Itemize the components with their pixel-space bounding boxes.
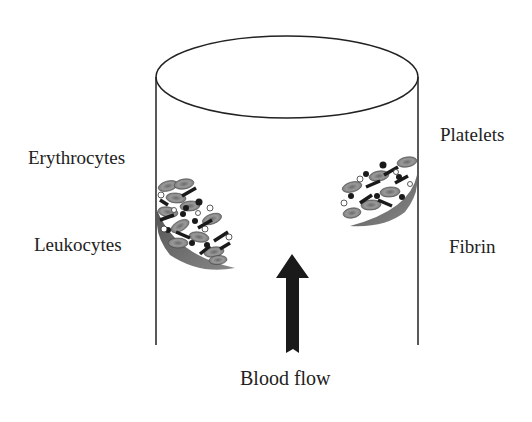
label-fibrin: Fibrin <box>449 237 495 256</box>
label-erythrocytes: Erythrocytes <box>28 148 125 167</box>
vessel-diagram <box>0 0 532 422</box>
left-thrombus <box>157 177 235 269</box>
label-platelets: Platelets <box>440 125 504 144</box>
label-leukocytes: Leukocytes <box>34 235 122 254</box>
right-thrombus <box>341 155 418 226</box>
label-blood-flow: Blood flow <box>240 368 331 388</box>
arrow-up-icon <box>276 254 309 353</box>
